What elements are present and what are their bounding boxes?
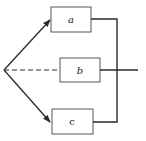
box-c: c	[52, 109, 93, 134]
box-a: a	[51, 7, 91, 32]
box-c-label: c	[69, 116, 75, 127]
arrow-to-c	[4, 70, 50, 122]
box-a-label: a	[68, 14, 74, 25]
box-b-label: b	[77, 65, 83, 76]
arrow-to-a	[4, 20, 50, 70]
flow-diagram: a b c	[0, 0, 146, 141]
box-b: b	[60, 58, 100, 82]
